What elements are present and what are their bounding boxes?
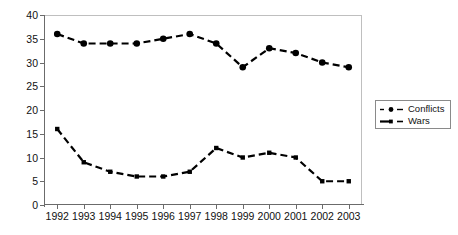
legend-item-wars[interactable]: Wars: [379, 115, 447, 127]
x-tick-label: 2003: [329, 211, 369, 222]
x-tick-mark: [57, 205, 58, 209]
x-axis-line: [44, 204, 364, 205]
legend-item-conflicts[interactable]: Conflicts: [379, 103, 447, 115]
y-tick-label: 20: [12, 105, 38, 116]
y-tick-label: 15: [12, 129, 38, 140]
x-tick-mark: [216, 205, 217, 209]
y-tick-label: 35: [12, 34, 38, 45]
x-tick-mark: [243, 205, 244, 209]
x-tick-mark: [84, 205, 85, 209]
x-tick-mark: [137, 205, 138, 209]
legend-swatch-wars: [379, 116, 405, 127]
x-tick-mark: [322, 205, 323, 209]
x-tick-mark: [269, 205, 270, 209]
y-tick-label: 10: [12, 153, 38, 164]
y-tick-label: 30: [12, 58, 38, 69]
y-axis-line: [44, 15, 45, 207]
x-tick-mark: [349, 205, 350, 209]
x-tick-mark: [296, 205, 297, 209]
plot-area: [44, 15, 362, 205]
x-tick-mark: [163, 205, 164, 209]
chart-figure: 0510152025303540 19921993199419951996199…: [0, 0, 458, 235]
x-tick-mark: [190, 205, 191, 209]
y-tick-label: 40: [12, 10, 38, 21]
x-tick-mark: [110, 205, 111, 209]
legend-label-conflicts: Conflicts: [408, 104, 444, 114]
y-tick-label: 0: [12, 200, 38, 211]
legend-swatch-conflicts: [379, 104, 405, 115]
y-tick-label: 25: [12, 81, 38, 92]
y-tick-label: 5: [12, 176, 38, 187]
legend-label-wars: Wars: [408, 116, 430, 126]
chart-legend: Conflicts Wars: [375, 100, 451, 129]
